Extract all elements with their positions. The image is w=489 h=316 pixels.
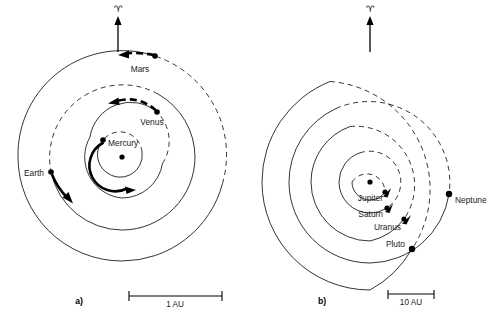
venus-label: Venus bbox=[140, 117, 163, 127]
pluto-marker bbox=[409, 246, 415, 252]
vernal-equinox-arrow-a: ♈ bbox=[114, 4, 123, 52]
neptune-marker bbox=[446, 191, 452, 197]
panel-a: ♈ Mercury bbox=[18, 4, 227, 309]
pluto-label: Pluto bbox=[386, 239, 405, 249]
scale-bar-b: 10 AU bbox=[388, 290, 434, 307]
mars-motion-arc bbox=[128, 53, 154, 55]
orbit-saturn-solid bbox=[339, 153, 387, 213]
orbit-earth-solid bbox=[51, 94, 195, 230]
uranus-label: Uranus bbox=[374, 222, 401, 232]
venus-motion-arrowhead bbox=[108, 98, 120, 106]
scale-bar-a: 1 AU bbox=[129, 291, 222, 309]
venus-motion-arc bbox=[117, 99, 156, 110]
equinox-arrow-head-b bbox=[366, 16, 373, 25]
equinox-arrow-head-a bbox=[114, 16, 121, 25]
jupiter-marker bbox=[382, 189, 387, 194]
panel-label-b: b) bbox=[318, 296, 326, 306]
panel-label-a: a) bbox=[75, 296, 83, 306]
mercury-motion-arrowhead bbox=[125, 187, 136, 195]
uranus-marker bbox=[401, 216, 406, 221]
mars-motion-arrowhead bbox=[118, 51, 129, 59]
orbit-uranus-dashed bbox=[350, 126, 415, 219]
saturn-marker bbox=[384, 205, 389, 210]
scale-label-b: 10 AU bbox=[400, 298, 422, 307]
orbit-pluto bbox=[262, 82, 430, 291]
mars-label: Mars bbox=[131, 64, 150, 74]
mars-marker bbox=[152, 53, 158, 59]
earth-marker bbox=[48, 169, 54, 175]
neptune-label: Neptune bbox=[455, 195, 487, 205]
orbit-pluto-solid bbox=[262, 82, 412, 291]
mercury-marker bbox=[100, 137, 106, 143]
venus-motion-indicator bbox=[108, 98, 156, 111]
jupiter-label: Jupiter bbox=[358, 193, 383, 203]
venus-marker bbox=[154, 109, 160, 115]
orbit-neptune-solid bbox=[289, 109, 449, 264]
panel-b: ♈ bbox=[262, 4, 487, 307]
scale-label-a: 1 AU bbox=[166, 300, 184, 309]
earth-label: Earth bbox=[24, 168, 44, 178]
planetary-orbit-diagram: ♈ Mercury bbox=[0, 0, 489, 316]
saturn-label: Saturn bbox=[358, 209, 383, 219]
orbit-mars-dashed bbox=[155, 56, 227, 184]
aries-symbol-a: ♈ bbox=[114, 4, 123, 14]
sun-marker-a bbox=[119, 154, 124, 159]
mercury-label: Mercury bbox=[108, 138, 139, 148]
aries-symbol-b: ♈ bbox=[366, 4, 375, 14]
sun-marker-b bbox=[367, 179, 372, 184]
vernal-equinox-arrow-b: ♈ bbox=[366, 4, 375, 52]
